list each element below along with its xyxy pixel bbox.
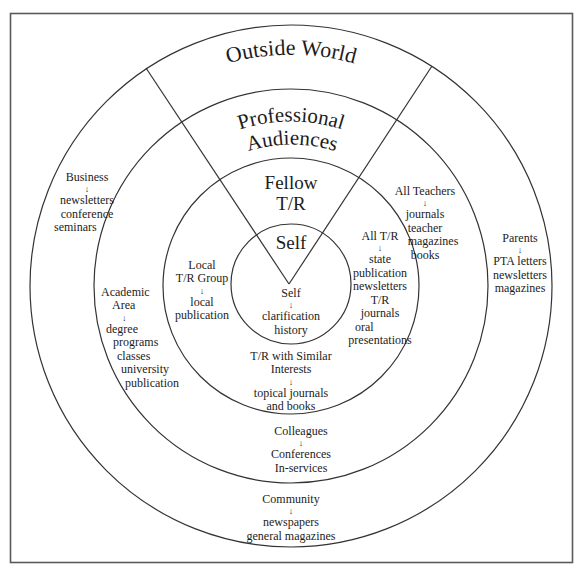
- self-title: Self: [256, 233, 326, 254]
- audience-diagram: Outside World Professional Audiences Fel…: [0, 0, 579, 569]
- group-colleagues: Colleagues ↓ Conferences In-services: [256, 425, 346, 475]
- group-business: Business ↓ newsletters conference semina…: [52, 171, 122, 235]
- group-parents: Parents ↓ PTA letters newsletters magazi…: [485, 232, 555, 296]
- group-community: Community ↓ newspapers general magazines: [236, 493, 346, 543]
- group-self: Self ↓ clarification history: [251, 287, 331, 337]
- outside-world-title: Outside World: [223, 35, 359, 69]
- fellow-tr-title: Fellow T/R: [251, 173, 331, 215]
- group-tr-similar-interests: T/R with Similar Interests ↓ topical jou…: [236, 350, 346, 414]
- group-academic-area: Academic Area ↓ degree programs classes …: [99, 286, 191, 390]
- group-all-tr: All T/R ↓ state publication newsletters …: [347, 230, 413, 348]
- professional-title-line2: Audiences: [244, 126, 341, 156]
